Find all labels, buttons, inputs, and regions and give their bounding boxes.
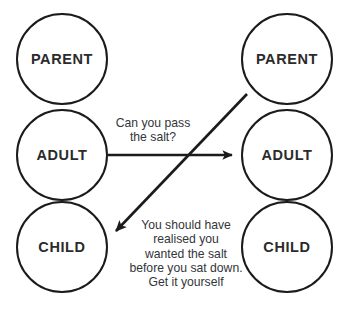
ego-state-right-parent: PARENT [241,13,333,105]
ego-state-right-child: CHILD [241,201,333,293]
ego-state-label: ADULT [261,148,312,163]
response-message: You should have realised you wanted the … [122,218,250,289]
ego-state-right-adult: ADULT [241,109,333,201]
ego-state-label: CHILD [263,240,310,255]
ego-state-left-adult: ADULT [16,109,108,201]
ego-state-left-parent: PARENT [16,13,108,105]
ego-state-label: PARENT [31,52,93,67]
response-arrow [116,94,247,231]
ego-state-label: ADULT [36,148,87,163]
stimulus-message: Can you pass the salt? [100,116,206,145]
ego-state-left-child: CHILD [16,201,108,293]
transactional-analysis-diagram: PARENT ADULT CHILD PARENT ADULT CHILD Ca… [0,0,345,311]
ego-state-label: PARENT [256,52,318,67]
ego-state-label: CHILD [38,240,85,255]
